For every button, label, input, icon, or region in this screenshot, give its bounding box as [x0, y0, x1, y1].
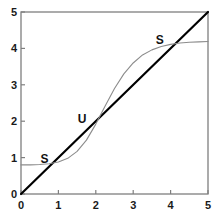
y-tick-label-2: 2 [3, 116, 17, 127]
y-tick-label-0: 0 [3, 189, 17, 200]
y-tick-label-3: 3 [3, 80, 17, 91]
y-tick-label-4: 4 [3, 43, 17, 54]
chart-figure: 012345 012345 SUS [0, 0, 221, 224]
annotation-stable-fixed-point-0: S [40, 153, 48, 165]
x-tick-label-2: 2 [89, 200, 103, 211]
series-line-0 [21, 12, 208, 194]
x-tick-label-1: 1 [51, 200, 65, 211]
y-tick-label-5: 5 [3, 7, 17, 18]
data-series-layer [21, 12, 208, 194]
annotation-stable-fixed-point-2: S [156, 34, 164, 46]
x-tick-label-0: 0 [14, 200, 28, 211]
x-tick-label-3: 3 [126, 200, 140, 211]
x-tick-label-4: 4 [164, 200, 178, 211]
x-tick-label-5: 5 [201, 200, 215, 211]
plot-canvas [0, 0, 221, 224]
annotation-unstable-fixed-point-1: U [78, 113, 87, 125]
y-tick-label-1: 1 [3, 153, 17, 164]
